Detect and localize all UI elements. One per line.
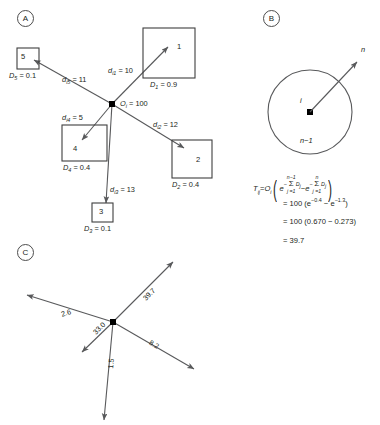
panel-tag-b: B — [263, 10, 280, 27]
zone-center-symbol: i — [300, 96, 302, 105]
formula-exponent-1: −n−1Σj =1Dj — [284, 175, 301, 194]
distance-label-4: di4 = 5 — [62, 114, 83, 121]
decay-label-2: D2 = 0.4 — [172, 181, 199, 188]
formula-paren-close: ) — [328, 177, 332, 201]
decay-subscript-2: 2 — [177, 184, 180, 190]
figure-canvas: A B C 1 2 3 4 5 Oi = 100 di1 = 10 di2 = … — [0, 0, 380, 425]
origin-value: = 100 — [129, 99, 148, 108]
zone-ring-label: n−1 — [300, 137, 313, 144]
decay-value-1: = 0.9 — [160, 80, 177, 89]
origin-label: Oi = 100 — [120, 100, 148, 107]
distance-value-4: = 5 — [72, 113, 82, 122]
formula-sum-bot-1: j =1 — [287, 189, 296, 194]
destination-box-4 — [62, 125, 107, 161]
formula-step-2: = 100 (0.670 − 0.273) — [283, 217, 356, 226]
decay-subscript-1: 1 — [155, 84, 158, 90]
distance-subscript-1: i1 — [112, 70, 116, 76]
decay-value-5: = 0.1 — [19, 71, 36, 80]
origin-subscript: i — [126, 103, 127, 109]
panel-tag-c: C — [17, 244, 34, 261]
decay-label-4: D4 = 0.4 — [63, 164, 90, 171]
distance-subscript-5: i5 — [66, 79, 70, 85]
distance-value-5: = 11 — [72, 75, 86, 84]
zone-outer-label: n — [361, 46, 365, 53]
destination-number-3: 3 — [99, 207, 103, 216]
formula-step-1: = 100 (e−0.4 − e−1.3) — [283, 199, 348, 208]
formula-sum-term-sub-2: j — [325, 184, 326, 190]
formula-sum-2: nΣj =1 — [313, 175, 322, 194]
flow-line-1 — [112, 47, 168, 104]
destination-number-1: 1 — [177, 42, 181, 51]
result-label-5: 1.5 — [106, 358, 116, 369]
destination-number-2: 2 — [196, 155, 200, 164]
distance-label-3: di3 = 13 — [110, 186, 135, 193]
step-1-close: ) — [345, 199, 348, 208]
distance-label-2: di2 = 12 — [153, 121, 178, 128]
result-line-1 — [113, 262, 173, 322]
distance-subscript-4: i4 — [66, 117, 70, 123]
decay-label-1: D1 = 0.9 — [150, 81, 177, 88]
formula-exponent-2: −nΣj =1Dj — [309, 175, 326, 194]
distance-value-1: = 10 — [118, 66, 133, 75]
zone-ring-symbol: n−1 — [300, 136, 313, 145]
origin-node-marker — [109, 101, 115, 107]
distance-label-5: di5 = 11 — [62, 76, 86, 83]
decay-value-3: = 0.1 — [94, 224, 111, 233]
destination-box-2 — [172, 140, 212, 178]
decay-subscript-3: 3 — [89, 228, 92, 234]
formula-sum-bot-2: j =1 — [313, 189, 322, 194]
zone-outer-symbol: n — [361, 45, 365, 54]
distance-label-1: di1 = 10 — [108, 67, 133, 74]
formula-sum-1: n−1Σj =1 — [287, 175, 296, 194]
distance-value-2: = 12 — [163, 120, 178, 129]
result-line-5 — [104, 322, 113, 420]
panel-tag-a: A — [17, 10, 34, 27]
destination-number-4: 4 — [73, 144, 77, 153]
formula-sum-term-sub-1: j — [300, 184, 301, 190]
destination-box-1 — [143, 28, 195, 78]
formula-step-3: = 39.7 — [283, 236, 304, 245]
decay-value-2: = 0.4 — [182, 180, 199, 189]
formula-origin-subscript: i — [270, 189, 271, 195]
step-1-exp-2: −1.3 — [335, 197, 346, 203]
step-1-text: = 100 (e — [283, 199, 311, 208]
decay-value-4: = 0.4 — [73, 163, 90, 172]
decay-label-5: D5 = 0.1 — [9, 72, 36, 79]
distance-subscript-3: i3 — [114, 189, 118, 195]
diagram-vector-layer — [0, 0, 380, 425]
destination-number-5: 5 — [21, 52, 25, 61]
decay-subscript-4: 4 — [68, 167, 71, 173]
panel-c-flow-lines — [27, 262, 194, 420]
decay-subscript-5: 5 — [14, 75, 17, 81]
decay-label-3: D3 = 0.1 — [84, 225, 111, 232]
formula-paren-open: ( — [273, 177, 277, 201]
step-1-mid: − e — [322, 199, 335, 208]
zone-radius-arrow — [310, 62, 357, 112]
zone-center-label: i — [300, 97, 302, 104]
panel-c-center-marker — [110, 319, 116, 325]
step-1-exp-1: −0.4 — [311, 197, 322, 203]
distance-value-3: = 13 — [120, 185, 135, 194]
distance-subscript-2: i2 — [157, 124, 161, 130]
